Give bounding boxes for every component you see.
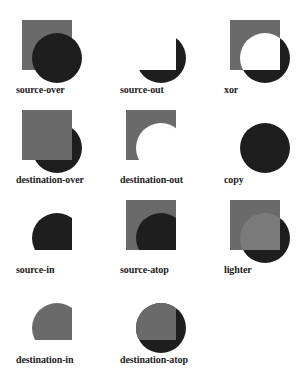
composite-copy: copy xyxy=(224,110,305,198)
composite-destination-over: destination-over xyxy=(16,110,116,198)
composite-xor: xor xyxy=(224,20,305,108)
destination-over-label: destination-over xyxy=(16,174,84,185)
composite-source-atop: source-atop xyxy=(120,200,220,288)
destination-out-figure xyxy=(120,110,220,180)
xor-figure xyxy=(224,20,305,90)
destination-atop-label: destination-atop xyxy=(120,354,188,365)
lighter-label: lighter xyxy=(224,264,252,275)
composite-source-in: source-in xyxy=(16,200,116,288)
source-in-label: source-in xyxy=(16,264,54,275)
destination-out-label: destination-out xyxy=(120,174,183,185)
copy-label: copy xyxy=(224,174,244,185)
destination-over-figure xyxy=(16,110,116,180)
composite-destination-atop: destination-atop xyxy=(120,290,220,378)
composite-lighter: lighter xyxy=(224,200,305,288)
source-over-label: source-over xyxy=(16,84,65,95)
destination-in-label: destination-in xyxy=(16,354,74,365)
destination-in-figure xyxy=(16,290,116,360)
copy-figure xyxy=(224,110,305,180)
xor-label: xor xyxy=(224,84,238,95)
source-in-figure xyxy=(16,200,116,270)
source-atop-figure xyxy=(120,200,220,270)
composite-source-over: source-over xyxy=(16,20,116,108)
composite-destination-out: destination-out xyxy=(120,110,220,198)
source-out-label: source-out xyxy=(120,84,164,95)
composite-source-out: source-out xyxy=(120,20,220,108)
source-out-figure xyxy=(120,20,220,90)
composite-destination-in: destination-in xyxy=(16,290,116,378)
source-over-figure xyxy=(16,20,116,90)
source-atop-label: source-atop xyxy=(120,264,169,275)
lighter-figure xyxy=(224,200,305,270)
destination-atop-figure xyxy=(120,290,220,360)
